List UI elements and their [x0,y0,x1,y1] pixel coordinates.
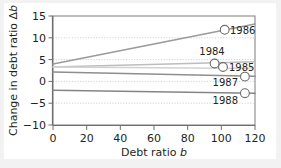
xtick-label-80: 80 [181,132,195,145]
point-label-1985: 1985 [229,62,254,73]
y-axis-title-plain: Change in debt ratio Δ [7,11,20,136]
x-tick-labels: 0 20 40 60 80 100 120 [50,132,266,145]
x-axis-title-plain: Debt ratio [121,146,177,159]
ytick-label-15: 15 [32,10,46,23]
marker-1985[interactable] [219,63,228,72]
xtick-label-0: 0 [50,132,57,145]
ytick-label-minus5: −5 [30,97,46,110]
y-tick-labels: 15 10 5 0 −5 −10 [23,10,46,132]
ytick-label-0: 0 [39,75,46,88]
xtick-label-60: 60 [147,132,161,145]
ytick-label-10: 10 [32,32,46,45]
chart-plot: 15 10 5 0 −5 −10 0 20 40 60 80 100 120 D… [4,3,276,159]
point-label-1984: 1984 [199,46,224,57]
x-axis-title-italic: b [180,146,187,159]
marker-1984[interactable] [210,59,219,68]
marker-1986[interactable] [220,25,229,34]
x-axis-title: Debt ratio b [121,146,187,159]
y-axis-title: Change in debt ratio Δb [7,5,20,136]
point-label-1987: 1987 [213,77,238,88]
ytick-label-5: 5 [39,54,46,67]
marker-1987[interactable] [241,72,250,81]
point-label-1988: 1988 [213,95,238,106]
xtick-label-120: 120 [245,132,266,145]
point-label-1986: 1986 [230,25,255,36]
xtick-label-20: 20 [80,132,94,145]
chart-canvas: 15 10 5 0 −5 −10 0 20 40 60 80 100 120 D… [4,3,276,159]
y-axis-title-italic: b [7,5,20,12]
xtick-label-100: 100 [211,132,232,145]
xtick-label-40: 40 [113,132,127,145]
figure-container: 15 10 5 0 −5 −10 0 20 40 60 80 100 120 D… [0,0,281,168]
ytick-label-minus10: −10 [23,119,46,132]
marker-1988[interactable] [241,89,250,98]
